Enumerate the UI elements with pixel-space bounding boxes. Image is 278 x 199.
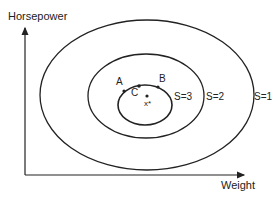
point-a-marker (122, 89, 125, 92)
contour-label-s1: S=1 (254, 91, 273, 102)
diagram-canvas: Horsepower Weight S=3 S=2 S=1 A B C x* (0, 0, 278, 199)
y-axis-label: Horsepower (8, 10, 68, 22)
contour-diagram: Horsepower Weight S=3 S=2 S=1 A B C x* (0, 0, 278, 199)
point-b-marker (156, 85, 159, 88)
point-b-label: B (159, 73, 166, 84)
x-axis-label: Weight (221, 179, 255, 191)
point-xstar-marker (145, 94, 148, 97)
contour-label-s3: S=3 (174, 91, 193, 102)
point-a-label: A (116, 76, 123, 87)
point-xstar-label: x* (144, 99, 151, 108)
contour-label-s2: S=2 (206, 91, 225, 102)
point-c-label: C (131, 87, 138, 98)
